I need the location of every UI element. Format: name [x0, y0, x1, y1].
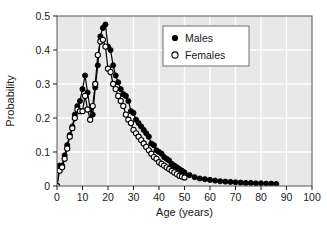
y-tick-label: 0.3	[35, 78, 50, 90]
data-point-males	[126, 98, 131, 103]
data-point-females	[65, 146, 70, 151]
data-point-males	[213, 178, 218, 183]
data-point-males	[207, 177, 212, 182]
x-tick-label: 0	[54, 191, 60, 203]
data-point-males	[197, 176, 202, 181]
x-tick-label: 30	[128, 191, 140, 203]
y-tick-label: 0	[44, 180, 50, 192]
x-tick-label: 60	[204, 191, 216, 203]
x-tick-label: 90	[281, 191, 293, 203]
data-point-females	[111, 81, 116, 86]
data-point-females	[116, 93, 121, 98]
data-point-females	[113, 87, 118, 92]
legend-marker-males-icon	[172, 35, 178, 41]
data-point-males	[82, 73, 87, 78]
data-point-males	[233, 180, 238, 185]
x-tick-label: 10	[77, 191, 89, 203]
data-point-females	[100, 37, 105, 42]
data-point-females	[62, 156, 67, 161]
data-point-females	[118, 98, 123, 103]
data-point-females	[72, 115, 77, 120]
data-point-males	[103, 22, 108, 27]
data-point-females	[108, 70, 113, 75]
data-point-males	[77, 98, 82, 103]
x-tick-label: 80	[255, 191, 267, 203]
data-point-males	[238, 180, 243, 185]
data-point-males	[123, 93, 128, 98]
data-point-females	[182, 175, 187, 180]
x-tick-label: 70	[230, 191, 242, 203]
data-point-males	[113, 73, 118, 78]
data-point-males	[248, 180, 253, 185]
probability-age-chart: 0102030405060708090100 00.10.20.30.40.5 …	[0, 0, 327, 230]
data-point-females	[95, 53, 100, 58]
data-point-males	[269, 181, 274, 186]
x-tick-label: 50	[179, 191, 191, 203]
data-point-females	[93, 81, 98, 86]
x-tick-label: 100	[303, 191, 321, 203]
y-axis-title: Probability	[4, 75, 16, 127]
x-tick-label: 40	[153, 191, 165, 203]
legend-label-males: Males	[185, 32, 213, 44]
data-point-males	[202, 177, 207, 182]
y-tick-label: 0.2	[35, 112, 50, 124]
data-point-females	[88, 117, 93, 122]
data-point-males	[223, 179, 228, 184]
data-point-females	[67, 134, 72, 139]
y-tick-label: 0.4	[35, 44, 50, 56]
data-point-males	[187, 173, 192, 178]
data-point-females	[128, 121, 133, 126]
data-point-males	[116, 80, 121, 85]
y-tick-label: 0.5	[35, 10, 50, 22]
data-point-females	[123, 112, 128, 117]
data-point-males	[111, 63, 116, 68]
data-point-males	[118, 87, 123, 92]
data-point-males	[146, 134, 151, 139]
data-point-females	[80, 109, 85, 114]
chart-figure: 0102030405060708090100 00.10.20.30.40.5 …	[0, 0, 327, 230]
data-point-females	[82, 93, 87, 98]
data-point-males	[108, 47, 113, 52]
data-point-females	[85, 107, 90, 112]
data-point-males	[131, 110, 136, 115]
data-point-females	[60, 165, 65, 170]
data-point-males	[80, 87, 85, 92]
data-point-females	[70, 126, 75, 131]
data-point-males	[264, 181, 269, 186]
data-point-males	[258, 181, 263, 186]
data-point-males	[218, 179, 223, 184]
x-axis-title: Age (years)	[156, 206, 213, 218]
y-tick-label: 0.1	[35, 146, 50, 158]
legend-label-females: Females	[185, 49, 225, 61]
data-point-females	[90, 104, 95, 109]
data-point-males	[253, 181, 258, 186]
data-point-males	[151, 143, 156, 148]
data-point-males	[95, 63, 100, 68]
data-point-males	[243, 180, 248, 185]
x-tick-label: 20	[102, 191, 114, 203]
data-point-females	[121, 104, 126, 109]
data-point-males	[192, 175, 197, 180]
data-point-males	[228, 179, 233, 184]
legend-marker-females-icon	[172, 52, 178, 58]
chart-legend: Males Females	[163, 26, 249, 66]
data-point-females	[103, 44, 108, 49]
